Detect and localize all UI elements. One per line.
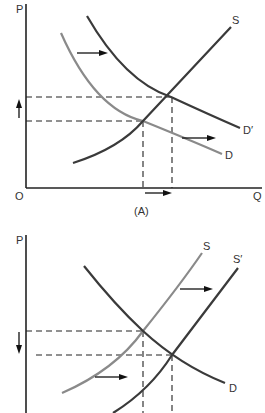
shift-right-arrow-icon (95, 374, 128, 380)
demand-curve-d-prime (87, 16, 240, 128)
curve-label-s-prime: S′ (233, 253, 242, 265)
demand-curve-d (84, 266, 225, 383)
axis-label-p: P (16, 234, 23, 246)
curve-label-d-prime: D′ (243, 124, 253, 136)
axis-label-q: Q (253, 190, 262, 202)
supply-curve-s (62, 253, 202, 393)
shift-right-arrow-icon (180, 286, 213, 292)
curve-label-s: S (203, 240, 210, 252)
supply-demand-diagram: P O Q S D′ D (A) P S (0, 0, 265, 413)
curve-label-d: D (225, 149, 233, 161)
demand-curve-d (61, 33, 222, 154)
price-increase-arrow-icon (16, 99, 22, 118)
panel-a: P O Q S D′ D (A) (15, 3, 262, 217)
price-decrease-arrow-icon (16, 332, 22, 354)
axis-label-p: P (16, 3, 23, 15)
panel-label: (A) (134, 205, 149, 217)
curve-label-d: D (229, 382, 237, 394)
panel-b: P S S′ D (16, 234, 242, 413)
quantity-increase-arrow-icon (145, 190, 172, 196)
origin-label: O (15, 190, 24, 202)
supply-curve-s (73, 27, 231, 163)
shift-right-arrow-icon (77, 50, 108, 56)
curve-label-s: S (232, 14, 239, 26)
